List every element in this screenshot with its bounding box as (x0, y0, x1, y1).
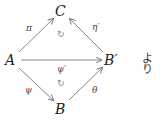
arrow-pi (19, 19, 53, 52)
node-b: B (55, 102, 65, 116)
node-c: C (55, 4, 66, 18)
diagram-arrows (0, 0, 163, 120)
label-psi: ψ (25, 86, 32, 95)
commute-marker-upper-icon: ↻ (57, 30, 65, 39)
trailing-text: より (142, 53, 163, 75)
label-psi-prime: ψ′ (57, 65, 66, 74)
commute-marker-lower-icon: ↻ (57, 79, 65, 88)
label-theta: θ (92, 86, 97, 95)
arrow-psi (19, 68, 53, 100)
label-eta-prime: η′ (92, 23, 99, 32)
label-pi: π (26, 24, 32, 33)
arrow-theta (69, 68, 102, 100)
node-a: A (5, 53, 15, 67)
node-b-prime: B′ (104, 53, 117, 67)
